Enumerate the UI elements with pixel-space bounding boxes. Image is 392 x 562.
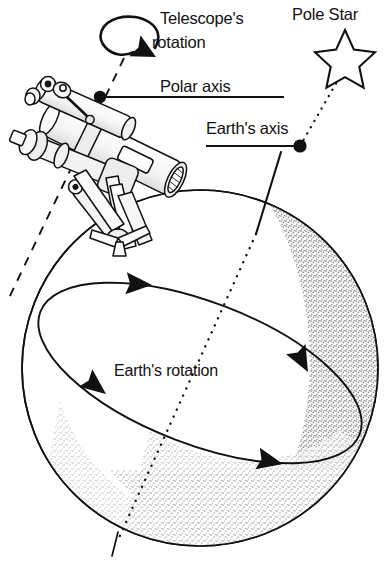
earths-axis-dot [293,139,306,152]
diagram-canvas: Telescope's rotation Pole Star Polar axi… [0,0,392,562]
telescope-earth-diagram: Telescope's rotation Pole Star Polar axi… [0,0,392,562]
polar-axis-dot [94,91,106,103]
earths-axis-leader [206,139,307,152]
label-telescope-rotation-line2: rotation [152,33,205,51]
pole-star-ray [300,80,338,146]
label-telescope-rotation-line1: Telescope's [160,9,244,27]
label-pole-star: Pole Star [292,5,359,23]
label-earths-axis: Earth's axis [206,119,288,137]
label-earths-rotation: Earth's rotation [114,362,218,379]
label-polar-axis: Polar axis [160,77,230,95]
star-icon [315,30,375,88]
